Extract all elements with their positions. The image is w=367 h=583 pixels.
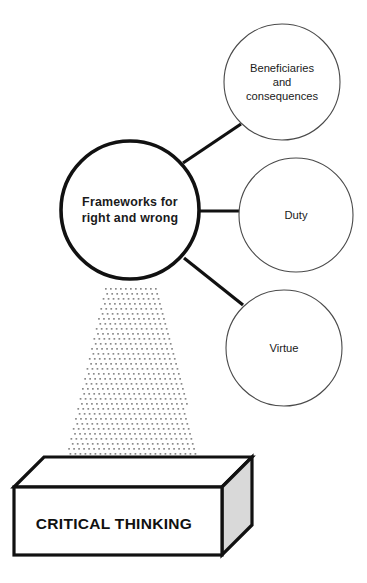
connector-to-beneficiaries (183, 124, 241, 163)
circle-frameworks-hub[interactable] (61, 141, 199, 279)
base-label-critical-thinking: CRITICAL THINKING (36, 515, 192, 532)
label-beneficiaries-and-consequences-line-2: and (273, 76, 292, 88)
label-frameworks-hub-line-1: Frameworks for (82, 195, 178, 209)
frameworks-hub-node[interactable]: Frameworks forright and wrong (61, 141, 199, 279)
base-top-face (14, 457, 252, 487)
label-frameworks-hub-line-2: right and wrong (82, 211, 179, 225)
diagram-canvas: BeneficiariesandconsequencesDutyVirtue F… (0, 0, 367, 583)
critical-thinking-beam (64, 288, 202, 475)
concept-diagram: BeneficiariesandconsequencesDutyVirtue F… (0, 0, 367, 583)
critical-thinking-base-block[interactable]: CRITICAL THINKING (14, 457, 252, 555)
label-beneficiaries-and-consequences-line-1: Beneficiaries (250, 62, 314, 74)
satellite-nodes: BeneficiariesandconsequencesDutyVirtue (224, 24, 353, 406)
label-beneficiaries-and-consequences-line-3: consequences (246, 90, 319, 102)
label-duty-line-1: Duty (284, 209, 307, 221)
label-virtue-line-1: Virtue (269, 342, 298, 354)
connector-to-virtue (184, 258, 243, 305)
